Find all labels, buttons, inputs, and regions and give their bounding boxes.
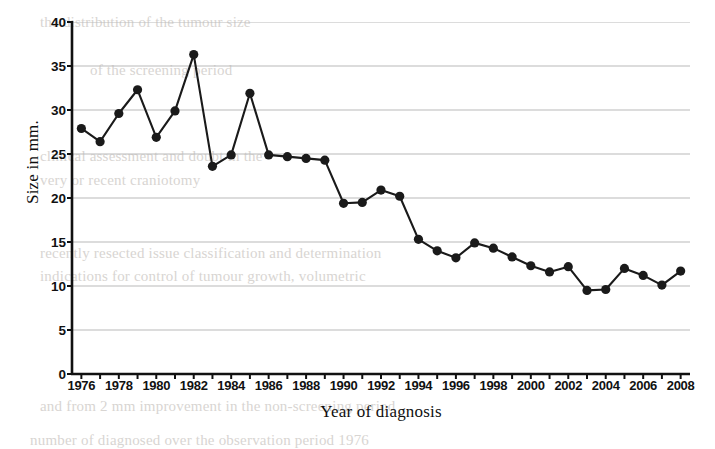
plot-area	[72, 22, 690, 374]
data-point	[95, 137, 104, 146]
data-point	[208, 162, 217, 171]
chart-figure: the distribution of the tumour size of t…	[0, 0, 715, 449]
data-point	[395, 192, 404, 201]
data-point	[283, 152, 292, 161]
data-point	[451, 253, 460, 262]
data-point	[339, 199, 348, 208]
data-point	[414, 235, 423, 244]
data-point	[582, 286, 591, 295]
data-point	[301, 154, 310, 163]
x-tick-label: 1990	[323, 378, 365, 393]
line-chart-svg	[72, 22, 690, 374]
data-point	[77, 124, 86, 133]
y-tick-label: 30	[36, 103, 66, 118]
x-tick-label: 1978	[98, 378, 140, 393]
x-tick-label: 2000	[510, 378, 552, 393]
data-point	[507, 252, 516, 261]
data-point	[545, 267, 554, 276]
data-point	[433, 246, 442, 255]
data-point	[189, 50, 198, 59]
x-tick-label: 1984	[210, 378, 252, 393]
data-point	[320, 156, 329, 165]
data-point	[133, 85, 142, 94]
data-point	[676, 266, 685, 275]
y-tick-label: 10	[36, 279, 66, 294]
x-tick-label: 1992	[360, 378, 402, 393]
data-point	[620, 264, 629, 273]
x-tick-label: 1998	[472, 378, 514, 393]
x-tick-label: 1976	[60, 378, 102, 393]
bleed-text-line: number of diagnosed over the observation…	[30, 432, 369, 449]
data-point	[245, 89, 254, 98]
y-tick-label: 25	[36, 147, 66, 162]
x-axis-title: Year of diagnosis	[72, 402, 690, 422]
x-tick-label: 1982	[173, 378, 215, 393]
x-tick-label: 1994	[397, 378, 439, 393]
data-point	[358, 198, 367, 207]
y-tick-label: 15	[36, 235, 66, 250]
y-tick-label: 5	[36, 323, 66, 338]
data-point	[376, 185, 385, 194]
y-tick-label: 35	[36, 59, 66, 74]
data-point	[152, 133, 161, 142]
data-point	[114, 109, 123, 118]
data-point	[489, 244, 498, 253]
data-series-line	[81, 55, 680, 291]
data-point	[526, 261, 535, 270]
y-tick-label: 40	[36, 15, 66, 30]
x-tick-label: 2006	[622, 378, 664, 393]
x-tick-label: 2002	[547, 378, 589, 393]
x-tick-label: 1980	[135, 378, 177, 393]
x-axis-tick-labels: 1976197819801982198419861988199019921994…	[72, 378, 690, 398]
data-point	[470, 238, 479, 247]
x-tick-label: 2008	[660, 378, 702, 393]
data-point	[639, 271, 648, 280]
data-point	[227, 150, 236, 159]
data-series-markers	[77, 50, 685, 295]
x-tick-label: 1988	[285, 378, 327, 393]
x-tick-label: 2004	[585, 378, 627, 393]
y-tick-label: 20	[36, 191, 66, 206]
data-point	[657, 281, 666, 290]
x-tick-label: 1996	[435, 378, 477, 393]
data-point	[601, 285, 610, 294]
gridlines	[72, 22, 690, 330]
x-tick-label: 1986	[248, 378, 290, 393]
data-point	[264, 150, 273, 159]
data-point	[170, 106, 179, 115]
data-point	[564, 262, 573, 271]
